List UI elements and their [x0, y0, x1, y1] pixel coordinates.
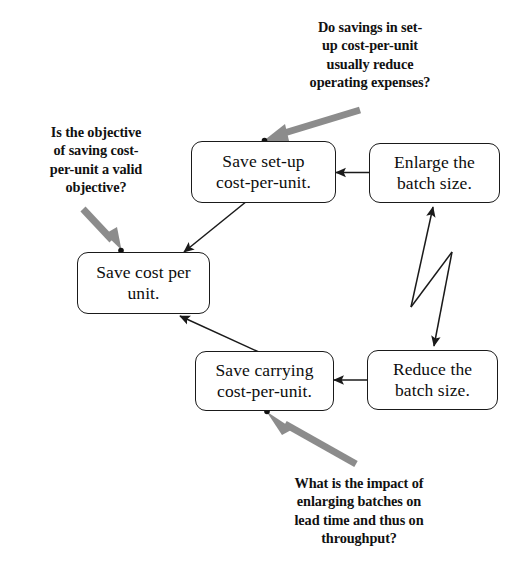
connector-save-carrying-to-save-cost [180, 316, 261, 353]
note-line: enlarging batches on [252, 492, 466, 510]
note-line: throughput? [252, 529, 466, 547]
note-line: Do savings in set- [268, 18, 472, 36]
note-line: objective? [12, 178, 180, 196]
node-label: Enlarge the batch size. [394, 152, 475, 195]
callout-arrow-valid-objective [83, 209, 124, 253]
note-line: What is the impact of [252, 474, 466, 492]
note-batch-impact: What is the impact of enlarging batches … [252, 474, 466, 547]
note-line: of saving cost- [12, 141, 180, 159]
node-label: Save set-up cost-per-unit. [216, 151, 311, 194]
note-line: usually reduce [268, 55, 472, 73]
note-line: Is the objective [12, 123, 180, 141]
note-line: per-unit a valid [12, 160, 180, 178]
note-line: operating expenses? [268, 73, 472, 91]
node-enlarge-the-batch-size[interactable]: Enlarge the batch size. [369, 143, 500, 203]
node-label: Save carrying cost-per-unit. [216, 360, 314, 403]
callout-arrow-setup-savings [262, 110, 360, 145]
diagram-canvas: Save set-up cost-per-unit. Enlarge the b… [0, 0, 527, 577]
note-valid-objective: Is the objective of saving cost- per-uni… [12, 123, 180, 196]
note-line: lead time and thus on [252, 511, 466, 529]
node-save-setup-cost-per-unit[interactable]: Save set-up cost-per-unit. [191, 141, 336, 203]
node-label: Reduce the batch size. [393, 359, 472, 402]
note-setup-savings: Do savings in set- up cost-per-unit usua… [268, 18, 472, 91]
node-label: Save cost per unit. [96, 262, 191, 305]
node-save-carrying-cost-per-unit[interactable]: Save carrying cost-per-unit. [195, 351, 334, 411]
connector-save-setup-to-save-cost [184, 201, 247, 252]
callout-arrow-batch-impact [264, 409, 356, 464]
note-line: up cost-per-unit [268, 36, 472, 54]
connector-enlarge-reduce-conflict [411, 207, 452, 346]
node-reduce-the-batch-size[interactable]: Reduce the batch size. [367, 350, 498, 410]
node-save-cost-per-unit[interactable]: Save cost per unit. [77, 252, 210, 314]
